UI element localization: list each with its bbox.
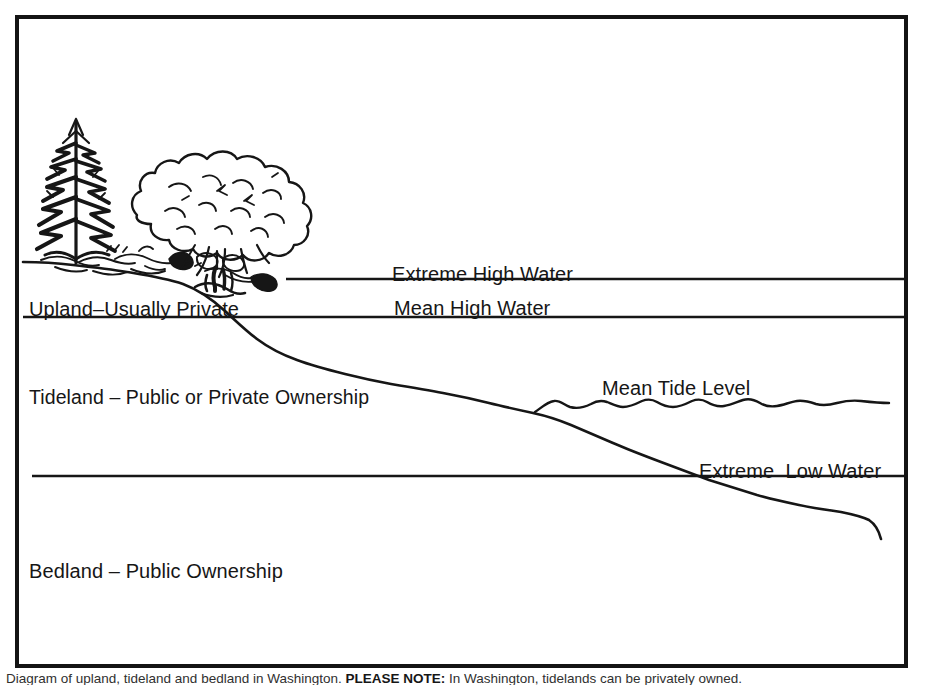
diagram-frame: Extreme High Water Mean High Water Mean …: [15, 15, 908, 668]
label-mean-tide-level: Mean Tide Level: [602, 378, 750, 398]
figure-caption-text: Diagram of upland, tideland and bedland …: [6, 671, 925, 685]
caption-lead: Diagram of upland, tideland and bedland …: [6, 671, 345, 685]
label-upland-zone: Upland–Usually Private: [29, 299, 239, 319]
label-bedland-zone: Bedland – Public Ownership: [29, 561, 283, 581]
caption-note-label: PLEASE NOTE:: [345, 671, 445, 685]
figure-caption: Diagram of upland, tideland and bedland …: [0, 671, 925, 685]
label-extreme-low-water: Extreme Low Water: [699, 461, 881, 481]
caption-note-text: In Washington, tidelands can be privatel…: [445, 671, 742, 685]
label-mean-high-water: Mean High Water: [394, 298, 550, 318]
conifer-tree-icon: [37, 119, 115, 263]
figure-root: Extreme High Water Mean High Water Mean …: [0, 0, 925, 685]
label-extreme-high-water: Extreme High Water: [392, 264, 573, 284]
deciduous-tree-icon: [132, 152, 311, 297]
datum-line-mean-tide-level-water-surface: [535, 399, 889, 412]
label-tideland-zone: Tideland – Public or Private Ownership: [29, 388, 369, 408]
